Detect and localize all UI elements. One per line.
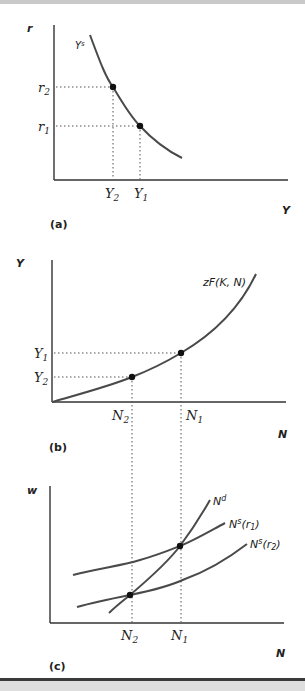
panel-c-label: (c)	[49, 660, 66, 673]
panel-c-n1-tick-label: N1	[170, 628, 188, 645]
panel-b-n1-tick-label: N1	[185, 408, 203, 425]
panel-c-equilibrium-2	[127, 592, 133, 598]
panel-b-label: (b)	[49, 441, 67, 454]
ys-curve-label: Ys	[75, 40, 85, 51]
economics-diagram: r Ys r2 r1 Y2 Y1 Y (a) Y zF(K, N) Y1 Y2 …	[0, 0, 305, 691]
panel-b-y-axis-label: Y	[16, 257, 25, 270]
y1-tick-label: Y1	[134, 186, 148, 203]
labor-supply-r1-label: Ns(r1)	[229, 517, 260, 532]
production-function-curve	[52, 274, 256, 402]
r1-tick-label: r1	[38, 119, 50, 136]
r2-tick-label: r2	[38, 80, 50, 97]
y2-tick-label: Y2	[105, 186, 120, 203]
panel-c-y-axis-label: w	[27, 484, 38, 497]
panel-c: w Nd Ns(r1) Ns(r2) N2 N1 N (c)	[27, 484, 285, 673]
bottom-border	[0, 681, 305, 691]
panel-b-point-1	[178, 350, 184, 356]
panel-a-point-2	[110, 84, 116, 90]
panel-a-y-axis-label: r	[27, 22, 33, 35]
production-function-label: zF(K, N)	[202, 276, 246, 289]
panel-b-x-axis-label: N	[278, 428, 287, 441]
panel-c-x-axis-label: N	[276, 647, 285, 660]
panel-c-n2-tick-label: N2	[120, 628, 138, 645]
panel-b-point-2	[129, 374, 135, 380]
labor-supply-r1-curve	[73, 523, 225, 575]
panel-a-x-axis-label: Y	[282, 204, 291, 217]
panel-b-n2-tick-label: N2	[111, 408, 129, 425]
panel-c-equilibrium-1	[177, 543, 183, 549]
panel-a-point-1	[137, 123, 143, 129]
panel-b-y1-tick-label: Y1	[34, 346, 48, 363]
labor-demand-label: Nd	[213, 494, 227, 508]
ys-curve	[90, 35, 182, 158]
labor-supply-r2-label: Ns(r2)	[250, 537, 281, 552]
panel-b: Y zF(K, N) Y1 Y2 N2 N1 N (b)	[16, 257, 287, 622]
panel-a: r Ys r2 r1 Y2 Y1 Y (a)	[27, 22, 291, 231]
panel-b-y2-tick-label: Y2	[34, 370, 49, 387]
panel-a-label: (a)	[50, 218, 67, 231]
